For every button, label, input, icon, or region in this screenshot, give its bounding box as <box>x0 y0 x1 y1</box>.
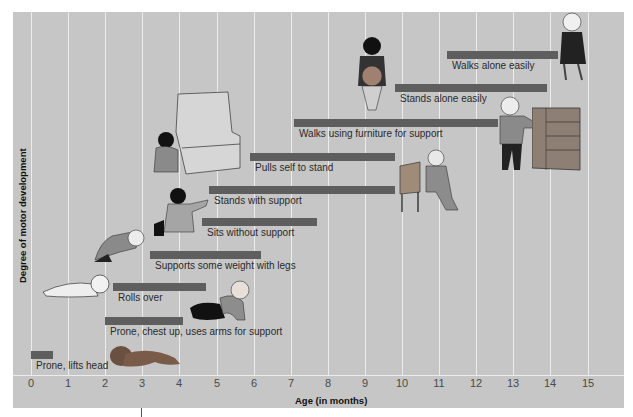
x-tick-label: 3 <box>139 377 145 389</box>
baby-with-armchair-icon <box>148 88 243 178</box>
milestone-bar <box>294 119 498 127</box>
milestone-bar <box>447 51 558 59</box>
milestone-label: Walks alone easily <box>452 60 534 71</box>
milestone-label: Pulls self to stand <box>255 162 333 173</box>
baby-prone-lifts-head-icon <box>105 340 185 372</box>
x-tick-label: 5 <box>214 377 220 389</box>
baby-supports-weight-icon <box>90 222 148 266</box>
milestone-bar <box>105 317 183 325</box>
toddler-walking-alone-icon <box>556 12 590 84</box>
milestone-bar <box>202 218 317 226</box>
x-tick-label: 2 <box>102 377 108 389</box>
milestone-bar <box>209 186 395 194</box>
x-axis-label: Age (in months) <box>295 395 367 406</box>
divider-line <box>141 408 142 417</box>
gridline <box>68 12 69 375</box>
milestone-label: Stands with support <box>214 195 302 206</box>
baby-pulling-with-chair-icon <box>396 148 466 214</box>
milestone-bar <box>395 84 547 92</box>
milestone-bar <box>150 251 261 259</box>
gridline <box>31 12 32 375</box>
x-tick-label: 15 <box>582 377 594 389</box>
milestone-label: Stands alone easily <box>400 93 487 104</box>
baby-rolls-over-icon <box>38 270 113 302</box>
x-tick-label: 10 <box>396 377 408 389</box>
milestone-label: Prone, chest up, uses arms for support <box>110 326 282 337</box>
x-tick-label: 14 <box>544 377 556 389</box>
x-tick-label: 12 <box>470 377 482 389</box>
milestone-label: Prone, lifts head <box>36 360 108 371</box>
milestone-label: Rolls over <box>118 292 162 303</box>
x-tick-label: 8 <box>325 377 331 389</box>
x-tick-label: 1 <box>65 377 71 389</box>
x-tick-label: 11 <box>433 377 444 389</box>
milestone-bar <box>31 351 53 359</box>
milestone-label: Supports some weight with legs <box>155 260 296 271</box>
x-axis-baseline <box>13 375 624 376</box>
y-axis-label: Degree of motor development <box>17 148 28 283</box>
milestone-bar <box>113 283 206 291</box>
milestone-bar <box>250 153 395 161</box>
x-tick-label: 13 <box>507 377 519 389</box>
milestone-label: Sits without support <box>207 227 294 238</box>
baby-sitting-icon <box>150 186 212 238</box>
chest-of-drawers-icon <box>532 106 584 172</box>
baby-standing-with-toy-icon <box>354 36 390 114</box>
x-tick-label: 7 <box>288 377 294 389</box>
x-tick-label: 6 <box>251 377 257 389</box>
gridline <box>550 12 551 375</box>
milestone-label: Walks using furniture for support <box>299 128 443 139</box>
x-tick-label: 4 <box>176 377 182 389</box>
x-tick-label: 0 <box>28 377 34 389</box>
x-tick-label: 9 <box>362 377 368 389</box>
